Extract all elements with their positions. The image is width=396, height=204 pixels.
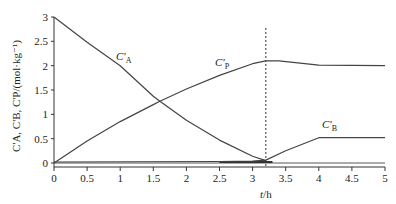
- line-chart: 00.511.522.533.544.5500.511.522.53 C'AC'…: [0, 0, 396, 204]
- label-ca: C'A: [116, 50, 132, 65]
- x-tick-label: 2: [184, 172, 190, 184]
- x-tick-label: 2.5: [213, 172, 227, 184]
- axes: [54, 17, 385, 167]
- series: [54, 17, 385, 167]
- x-tick-label: 0: [51, 172, 57, 184]
- ticks: 00.511.522.533.544.5500.511.522.53: [34, 11, 388, 184]
- y-tick-label: 1.5: [34, 84, 48, 96]
- x-tick-label: 3: [250, 172, 256, 184]
- y-tick-label: 2.5: [34, 35, 48, 47]
- y-tick-label: 0: [43, 157, 49, 169]
- x-tick-label: 3.5: [279, 172, 293, 184]
- y-tick-label: 1: [43, 108, 49, 120]
- label-cp: C'P: [215, 56, 230, 71]
- x-tick-label: 1.5: [146, 172, 160, 184]
- label-cb: C'B: [322, 118, 337, 133]
- x-tick-label: 0.5: [80, 172, 94, 184]
- x-tick-label: 5: [382, 172, 388, 184]
- x-axis-title: t/h: [260, 188, 272, 200]
- x-tick-label: 4: [316, 172, 322, 184]
- y-axis-title: C'A, C'B, C'P/(mol·kg⁻¹): [10, 40, 23, 152]
- y-tick-label: 2: [43, 60, 49, 72]
- x-tick-label: 1: [117, 172, 123, 184]
- series-line-cp: [54, 61, 385, 163]
- x-tick-label: 4.5: [345, 172, 359, 184]
- y-tick-label: 0.5: [34, 133, 48, 145]
- series-line-cb: [54, 138, 385, 162]
- series-line-ca: [54, 17, 266, 161]
- y-tick-label: 3: [43, 11, 49, 23]
